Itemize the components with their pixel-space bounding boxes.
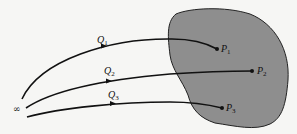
point-p1 (215, 47, 219, 51)
point-p3 (220, 106, 224, 110)
arrow-q2-icon (106, 79, 112, 84)
infinity-label: ∞ (13, 104, 21, 114)
label-q2: Q2 (104, 65, 115, 78)
point-p2 (250, 69, 254, 73)
diagram: ∞ Q1 Q2 Q3 P1 P2 P3 (0, 0, 297, 134)
label-q3: Q3 (108, 89, 119, 102)
